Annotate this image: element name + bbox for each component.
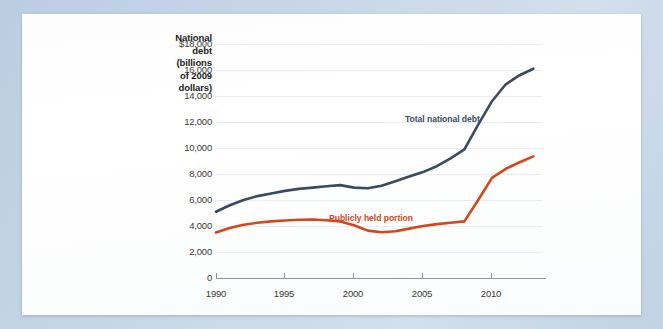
line-chart: National debt (billions of 2009 dollars)… xyxy=(22,14,641,315)
series-label-total-national-debt: Total national debt xyxy=(405,114,480,124)
plot-lines xyxy=(22,14,641,315)
figure-card: National debt (billions of 2009 dollars)… xyxy=(22,14,641,315)
series-label-publicly-held-portion: Publicly held portion xyxy=(329,213,413,223)
